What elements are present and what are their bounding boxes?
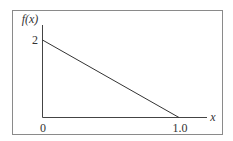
x-tick-label-1: 1.0 <box>173 121 188 135</box>
y-axis-label: f(x) <box>22 12 39 26</box>
x-tick-label-0: 0 <box>40 121 46 135</box>
y-tick-label-2: 2 <box>32 33 38 47</box>
x-axis-label: x <box>209 110 216 124</box>
chart-figure: f(x) 2 0 1.0 x <box>0 0 233 141</box>
chart-frame <box>13 11 223 135</box>
